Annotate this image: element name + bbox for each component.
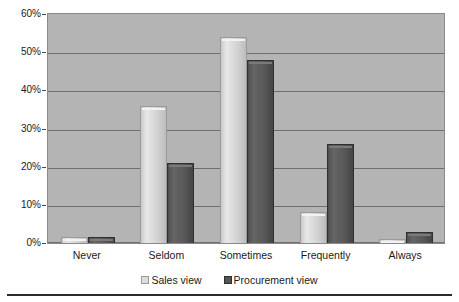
bar-top-highlight bbox=[408, 234, 431, 236]
bar[interactable] bbox=[140, 106, 167, 243]
y-axis-tick-label: 0% bbox=[0, 238, 41, 248]
bar-group bbox=[220, 14, 274, 243]
plot-area bbox=[47, 13, 445, 244]
x-axis-tick-label: Seldom bbox=[127, 249, 207, 261]
bar[interactable] bbox=[61, 237, 88, 243]
series-procurement-swatch bbox=[224, 276, 232, 284]
bar[interactable] bbox=[406, 232, 433, 243]
legend-label: Sales view bbox=[151, 274, 201, 286]
bar-top-highlight bbox=[249, 62, 272, 64]
bar[interactable] bbox=[88, 237, 115, 243]
bar-top-highlight bbox=[222, 39, 245, 41]
bar-top-highlight bbox=[381, 241, 404, 243]
y-axis-tick-mark bbox=[42, 90, 46, 91]
bar-top-highlight bbox=[329, 146, 352, 148]
legend-label: Procurement view bbox=[234, 274, 318, 286]
bar-top-highlight bbox=[169, 165, 192, 167]
y-axis-tick-mark bbox=[42, 52, 46, 53]
bar-group bbox=[379, 14, 433, 243]
y-axis-tick-mark bbox=[42, 129, 46, 130]
bar-top-highlight bbox=[302, 214, 325, 216]
y-axis-tick-mark bbox=[42, 14, 46, 15]
bar[interactable] bbox=[247, 60, 274, 243]
x-axis-tick-label: Sometimes bbox=[206, 249, 286, 261]
x-axis-tick-label: Frequently bbox=[286, 249, 366, 261]
bar-top-highlight bbox=[63, 239, 86, 241]
bottom-divider bbox=[7, 294, 452, 296]
y-axis-tick-label: 40% bbox=[0, 85, 41, 95]
y-axis-tick-label: 30% bbox=[0, 124, 41, 134]
x-axis-tick-label: Never bbox=[47, 249, 127, 261]
bar[interactable] bbox=[327, 144, 354, 243]
chart-legend: Sales viewProcurement view bbox=[0, 274, 459, 286]
bar-top-highlight bbox=[90, 239, 113, 241]
legend-entry[interactable]: Procurement view bbox=[224, 274, 318, 286]
y-axis-tick-label: 20% bbox=[0, 162, 41, 172]
y-axis-tick-mark bbox=[42, 243, 46, 244]
y-axis-tick-label: 10% bbox=[0, 200, 41, 210]
y-axis-tick-label: 50% bbox=[0, 47, 41, 57]
bar-group bbox=[61, 14, 115, 243]
bar-top-highlight bbox=[142, 108, 165, 110]
series-sales-swatch bbox=[141, 276, 149, 284]
bar[interactable] bbox=[167, 163, 194, 243]
bar-chart: 0%10%20%30%40%50%60% NeverSeldomSometime… bbox=[0, 0, 459, 302]
x-axis-tick-label: Always bbox=[365, 249, 445, 261]
y-axis-tick-mark bbox=[42, 205, 46, 206]
y-axis-tick-mark bbox=[42, 167, 46, 168]
bar[interactable] bbox=[220, 37, 247, 243]
legend-entry[interactable]: Sales view bbox=[141, 274, 201, 286]
bar-group bbox=[300, 14, 354, 243]
bar-group bbox=[140, 14, 194, 243]
bar[interactable] bbox=[300, 212, 327, 243]
bar[interactable] bbox=[379, 239, 406, 243]
y-axis-tick-label: 60% bbox=[0, 9, 41, 19]
